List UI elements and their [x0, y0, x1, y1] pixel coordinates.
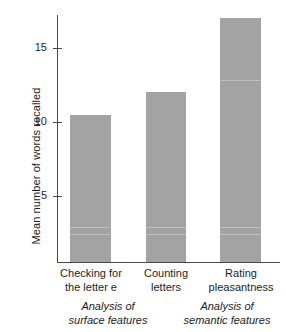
bar-checking-for-the-letter-e	[70, 115, 111, 262]
bar-counting-letters	[146, 92, 186, 262]
bar-rating-pleasantness	[220, 18, 261, 262]
bar-grain-line	[70, 234, 111, 235]
x-category-label-checking-for-the-letter-e: Checking for the letter e	[46, 267, 136, 294]
x-category-label-rating-pleasantness: Rating pleasantness	[196, 267, 286, 294]
bar-grain-line	[70, 227, 111, 228]
y-tick-label-15: 15	[17, 42, 47, 53]
bar-grain-line	[220, 80, 261, 81]
y-tick-mark-15	[53, 48, 62, 49]
bar-grain-line	[220, 234, 261, 235]
x-axis-line	[57, 262, 280, 263]
bar-chart-figure: Mean number of words recalled 15 10 5 Ch…	[0, 0, 286, 332]
group-label-semantic-features: Analysis of semantic features	[168, 300, 286, 327]
y-tick-mark-10	[53, 122, 62, 123]
y-axis-title: Mean number of words recalled	[30, 66, 42, 266]
bar-grain-line	[146, 234, 186, 235]
y-tick-label-10: 10	[17, 116, 47, 127]
group-label-surface-features: Analysis of surface features	[53, 300, 163, 327]
y-axis-line	[57, 15, 58, 262]
y-tick-mark-5	[53, 196, 62, 197]
bar-grain-line	[146, 227, 186, 228]
x-category-label-counting-letters: Counting letters	[128, 267, 204, 294]
bar-grain-line	[220, 227, 261, 228]
y-tick-label-5: 5	[17, 190, 47, 201]
